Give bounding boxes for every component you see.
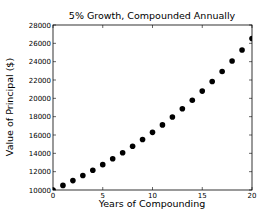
y-tick-label: 10000 (29, 187, 51, 195)
data-point (100, 162, 106, 168)
data-point (80, 173, 86, 179)
y-axis-label: Value of Principal ($) (4, 58, 15, 156)
data-point (190, 97, 196, 103)
y-tick-label: 22000 (29, 77, 51, 85)
y-tick-label: 20000 (29, 95, 51, 103)
y-axis-ticks: 1000012000140001600018000200002200024000… (29, 22, 252, 195)
x-tick-label: 20 (248, 192, 257, 200)
data-point (170, 114, 176, 120)
data-point (140, 137, 146, 143)
data-point (239, 47, 245, 53)
y-tick-label: 16000 (29, 132, 51, 140)
data-point (130, 143, 136, 149)
data-points (50, 36, 255, 193)
data-point (180, 106, 186, 112)
data-point (219, 69, 225, 75)
data-point (150, 130, 156, 136)
y-tick-label: 14000 (29, 150, 51, 158)
scatter-chart: 5% Growth, Compounded Annually 05101520 … (0, 0, 268, 220)
x-tick-label: 0 (51, 192, 55, 200)
data-point (160, 122, 166, 128)
data-point (60, 183, 66, 189)
data-point (110, 156, 116, 162)
data-point (120, 150, 126, 156)
y-tick-label: 18000 (29, 113, 51, 121)
y-tick-label: 26000 (29, 40, 51, 48)
data-point (209, 79, 215, 85)
y-tick-label: 12000 (29, 168, 51, 176)
data-point (90, 167, 96, 173)
y-tick-label: 28000 (29, 22, 51, 30)
plot-frame (53, 25, 252, 190)
data-point (229, 58, 235, 64)
chart-title: 5% Growth, Compounded Annually (69, 10, 236, 21)
data-point (70, 178, 76, 184)
data-point (199, 88, 205, 94)
x-axis-label: Years of Compounding (98, 198, 206, 209)
y-tick-label: 24000 (29, 58, 51, 66)
